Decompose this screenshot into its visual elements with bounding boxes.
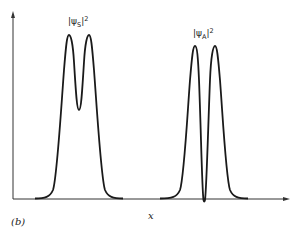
wavefunction-diagram: |ψS|2 |ψA|2 x (b)	[0, 0, 299, 233]
x-axis-label: x	[148, 210, 154, 221]
y-axis-arrow-icon	[11, 11, 15, 18]
panel-label: (b)	[11, 216, 25, 227]
curve-symmetric	[35, 35, 123, 199]
label-symmetric: |ψS|2	[68, 15, 88, 29]
label-antisymmetric: |ψA|2	[193, 27, 214, 41]
curve-antisymmetric	[160, 46, 248, 202]
x-axis-arrow-icon	[283, 197, 290, 201]
axes	[11, 11, 290, 201]
